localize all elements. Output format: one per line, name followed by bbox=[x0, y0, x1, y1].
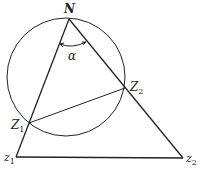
label-Z2: Z2 bbox=[129, 80, 143, 96]
segment-N-z1 bbox=[16, 19, 69, 157]
label-alpha: α bbox=[68, 49, 76, 63]
label-Z1: Z1 bbox=[10, 118, 24, 134]
label-z2: z2 bbox=[185, 152, 197, 167]
geometry-figure: N α Z2 Z1 z1 z2 bbox=[0, 0, 200, 173]
label-z1: z1 bbox=[3, 151, 15, 166]
label-N: N bbox=[63, 2, 76, 16]
diagram-canvas: N α Z2 Z1 z1 z2 bbox=[0, 0, 200, 173]
segment-z1-z2 bbox=[16, 157, 183, 158]
segment-N-z2 bbox=[69, 19, 183, 158]
circumcircle bbox=[7, 18, 125, 136]
segment-Z1-Z2 bbox=[29, 88, 125, 123]
